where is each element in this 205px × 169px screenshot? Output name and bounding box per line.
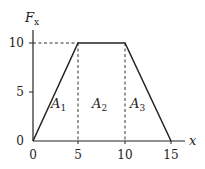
x-tick-label-5: 5 xyxy=(74,148,82,162)
x-tick-label-0: 0 xyxy=(29,148,37,162)
x-axis-label: x xyxy=(189,133,197,148)
work-diagram-chart: 10 5 0 0 5 10 15 Fx x A1 A2 A3 xyxy=(0,0,205,169)
y-tick-label-0: 0 xyxy=(16,134,24,148)
area-label-a3: A3 xyxy=(129,96,145,113)
y-tick-label-5: 5 xyxy=(16,85,24,99)
area-label-a2: A2 xyxy=(91,96,107,113)
x-tick-label-10: 10 xyxy=(117,148,132,162)
force-curve xyxy=(33,43,171,141)
y-axis-label: Fx xyxy=(24,10,39,27)
area-label-a1: A1 xyxy=(50,96,66,113)
y-tick-label-10: 10 xyxy=(9,36,24,50)
x-tick-label-15: 15 xyxy=(163,148,178,162)
